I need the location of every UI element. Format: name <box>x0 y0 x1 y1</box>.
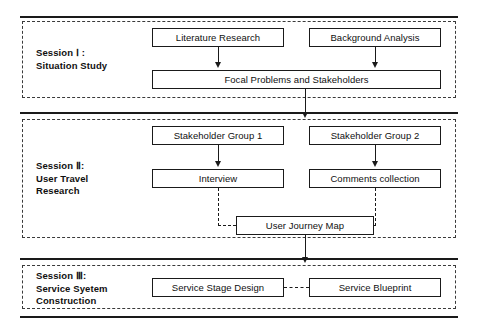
flowchart-diagram: Session Ⅰ : Situation Study Literature R… <box>0 0 480 330</box>
node-background-analysis[interactable]: Background Analysis <box>309 28 441 47</box>
connector-interview-to-journey-map-vertical <box>218 188 219 226</box>
arrowhead-background-to-focal <box>372 62 378 68</box>
connector-interview-to-journey-map-horizontal <box>218 225 236 226</box>
arrowhead-group2-to-comments <box>372 161 378 167</box>
node-comments-collection[interactable]: Comments collection <box>309 169 441 188</box>
rule-bottom <box>20 316 458 318</box>
rule-top <box>20 16 458 18</box>
arrowhead-literature-to-focal <box>215 62 221 68</box>
rule-between-session-2-and-3 <box>20 258 458 260</box>
node-service-blueprint[interactable]: Service Blueprint <box>309 278 441 297</box>
node-interview[interactable]: Interview <box>152 169 284 188</box>
node-user-journey-map[interactable]: User Journey Map <box>236 216 374 235</box>
arrowhead-focal-to-session-2 <box>302 112 308 118</box>
node-literature-research[interactable]: Literature Research <box>152 28 284 47</box>
connector-comments-to-journey-map-vertical <box>375 188 376 226</box>
connector-stage-design-to-blueprint <box>284 287 309 288</box>
node-stakeholder-group-1[interactable]: Stakeholder Group 1 <box>152 126 284 145</box>
arrowhead-journey-map-to-session-3 <box>302 257 308 263</box>
session-1-label: Session Ⅰ : Situation Study <box>36 47 107 72</box>
node-service-stage-design[interactable]: Service Stage Design <box>152 278 284 297</box>
arrowhead-group1-to-interview <box>215 161 221 167</box>
node-stakeholder-group-2[interactable]: Stakeholder Group 2 <box>309 126 441 145</box>
session-2-label: Session Ⅱ: User Travel Research <box>36 160 88 198</box>
node-focal-problems-and-stakeholders[interactable]: Focal Problems and Stakeholders <box>152 70 441 89</box>
rule-between-session-1-and-2 <box>20 112 458 114</box>
session-3-label: Session Ⅲ: Service Syetem Construction <box>36 270 108 308</box>
